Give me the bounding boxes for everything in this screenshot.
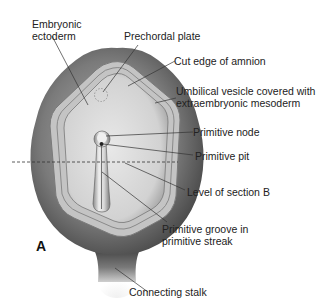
embryo-diagram: Embryonic ectoderm Prechordal plate Cut … xyxy=(0,0,335,307)
label-primitive-node: Primitive node xyxy=(193,126,260,138)
panel-label: A xyxy=(36,238,46,254)
label-level-section-b: Level of section B xyxy=(187,186,270,198)
label-embryonic-ectoderm-line2: ectoderm xyxy=(32,30,82,42)
label-primitive-groove: Primitive groove in primitive streak xyxy=(162,223,248,247)
label-cut-edge-amnion: Cut edge of amnion xyxy=(174,55,266,67)
label-primitive-groove-line1: Primitive groove in xyxy=(162,223,248,235)
primitive-pit-dot xyxy=(100,142,104,146)
primitive-streak-shape xyxy=(93,131,110,212)
label-prechordal-plate: Prechordal plate xyxy=(124,30,200,42)
label-umbilical-vesicle-line2: extraembryonic mesoderm xyxy=(176,97,315,109)
label-embryonic-ectoderm-line1: Embryonic xyxy=(32,18,82,30)
label-embryonic-ectoderm: Embryonic ectoderm xyxy=(32,18,82,42)
label-primitive-pit: Primitive pit xyxy=(195,150,249,162)
diagram-illustration xyxy=(0,0,335,307)
label-umbilical-vesicle: Umbilical vesicle covered with extraembr… xyxy=(176,85,315,109)
label-connecting-stalk: Connecting stalk xyxy=(129,286,207,298)
label-primitive-groove-line2: primitive streak xyxy=(162,235,248,247)
label-umbilical-vesicle-line1: Umbilical vesicle covered with xyxy=(176,85,315,97)
